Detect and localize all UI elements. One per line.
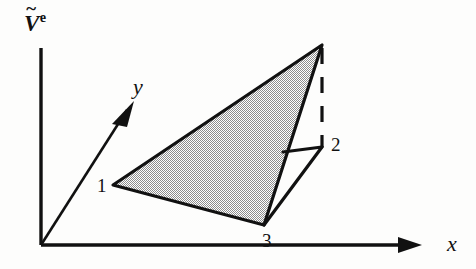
horizontal-axis-label: x (447, 233, 457, 255)
node-label-1: 1 (97, 176, 107, 195)
vertical-axis-label-superscript: e (40, 9, 46, 25)
node-label-2: 2 (331, 135, 341, 154)
horizontal-axis-arrowhead (398, 237, 422, 253)
shaded-triangle-face (113, 45, 322, 225)
figure-container: ~Ve x y 1 2 3 (0, 0, 476, 269)
node-label-3: 3 (262, 231, 272, 250)
figure-drawing (0, 0, 476, 269)
depth-axis-label: y (133, 76, 143, 98)
vertical-axis-label: ~Ve (24, 10, 46, 35)
depth-axis-arrowhead (112, 101, 134, 127)
tilde-accent: ~ (26, 0, 36, 19)
depth-axis-line (41, 110, 127, 245)
